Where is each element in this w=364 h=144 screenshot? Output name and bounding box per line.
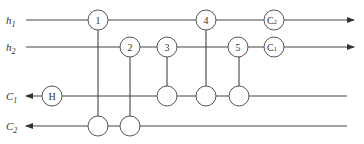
node-c2-output: C2: [264, 10, 284, 30]
node-bottom-3: [157, 86, 177, 106]
svg-text:5: 5: [236, 42, 241, 53]
svg-text:4: 4: [204, 15, 209, 26]
node-h: H: [42, 86, 62, 106]
node-4: 4: [196, 10, 216, 30]
label-h2: h2: [6, 41, 16, 56]
label-c2: C2: [6, 120, 17, 135]
node-bottom-5: [229, 86, 249, 106]
node-5: 5: [228, 37, 248, 57]
node-bottom-2: [120, 116, 140, 136]
circuit-diagram: h1 h2 C1 C2 1 2 3 4 5 C2 C1 H: [0, 0, 364, 144]
node-bottom-1: [88, 116, 108, 136]
node-bottom-4: [196, 86, 216, 106]
node-c1-output: C1: [264, 37, 284, 57]
svg-text:H: H: [48, 91, 55, 102]
node-2: 2: [120, 37, 140, 57]
label-c1: C1: [6, 90, 17, 105]
svg-text:2: 2: [128, 42, 133, 53]
node-1: 1: [88, 10, 108, 30]
label-h1: h1: [6, 14, 16, 29]
svg-text:3: 3: [165, 42, 170, 53]
svg-text:1: 1: [96, 15, 101, 26]
node-3: 3: [157, 37, 177, 57]
